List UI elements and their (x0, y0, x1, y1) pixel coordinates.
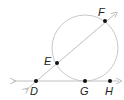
point-g (83, 79, 87, 83)
point-d (34, 79, 38, 83)
point-label-e: E (44, 55, 52, 67)
circle (52, 15, 118, 81)
point-label-d: D (30, 85, 38, 97)
secant-line-df (26, 14, 115, 90)
point-label-g: G (80, 85, 89, 97)
diagram-canvas: DEFGH (0, 0, 124, 100)
point-e (55, 61, 59, 65)
point-label-f: F (98, 6, 106, 18)
point-label-h: H (105, 85, 113, 97)
point-f (103, 19, 107, 23)
point-h (108, 79, 112, 83)
geometry-diagram: DEFGH (0, 0, 124, 100)
